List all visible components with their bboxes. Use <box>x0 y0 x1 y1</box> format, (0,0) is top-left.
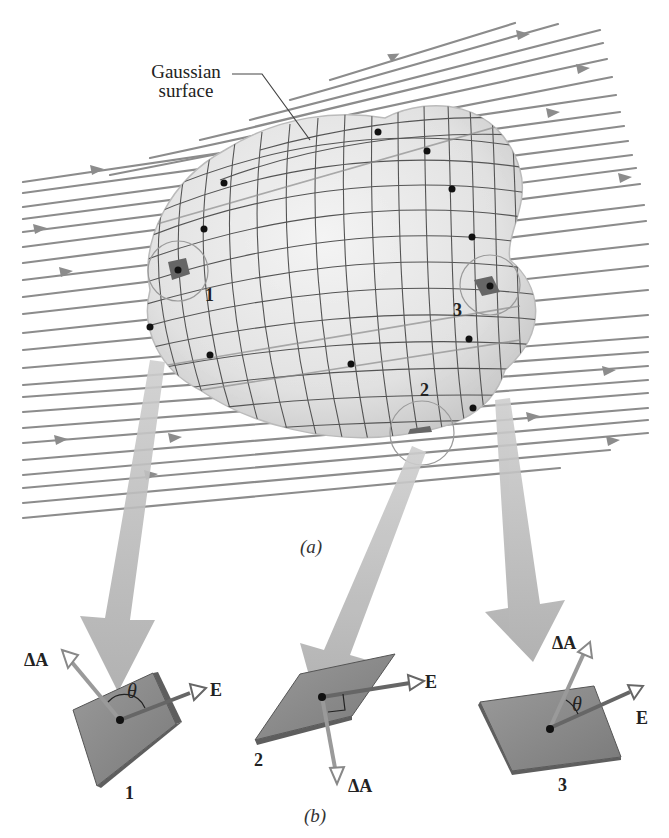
element-2-e-label: E <box>425 672 437 693</box>
element-1-delta-a-label: ΔA <box>24 650 48 671</box>
caption-part-b: (b) <box>304 805 326 827</box>
element-3-delta-a-label: ΔA <box>552 633 576 654</box>
e-arrowhead-2 <box>408 675 424 690</box>
figure-canvas <box>0 0 669 838</box>
element-3-diagram <box>478 642 643 775</box>
element-1-number: 1 <box>125 783 134 804</box>
element-1-e-label: E <box>210 680 222 701</box>
e-arrowhead-1 <box>190 684 206 700</box>
label-line-gaussian: Gaussian <box>140 62 232 81</box>
element-1-diagram <box>62 650 206 788</box>
element-3-theta-label: θ <box>572 693 582 716</box>
element-2-diagram <box>255 654 424 784</box>
patch-label-1: 1 <box>205 285 214 306</box>
element-2-delta-a-label: ΔA <box>348 776 372 797</box>
gaussian-surface-figure: Gaussian surface 1 2 3 (a) ΔA E θ 1 E ΔA… <box>0 0 669 838</box>
element-3-number: 3 <box>558 775 567 796</box>
patch-label-3: 3 <box>453 300 462 321</box>
element-2-number: 2 <box>254 750 263 771</box>
element-3-e-label: E <box>636 708 648 729</box>
label-line-surface: surface <box>140 81 232 100</box>
gaussian-surface-label: Gaussian surface <box>140 62 232 100</box>
caption-part-a: (a) <box>300 536 322 558</box>
element-1-theta-label: θ <box>127 680 137 703</box>
e-arrowhead-3 <box>628 685 643 699</box>
delta-a-arrowhead-2 <box>330 767 344 784</box>
patch-label-2: 2 <box>420 380 429 401</box>
delta-a-arrowhead-3 <box>578 642 592 658</box>
element-1-plate <box>73 673 176 786</box>
